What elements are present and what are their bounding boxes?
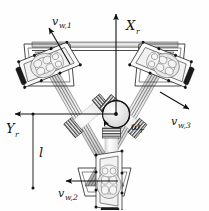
diagram-canvas: X r Y r ω r v w,1 v w,3 v w,2 l: [0, 0, 209, 210]
velocity-label-wheel-1: v: [52, 15, 59, 28]
velocity-subscript-wheel-2: w,2: [65, 193, 78, 202]
rotation-label: ω: [131, 120, 140, 133]
x-axis-subscript: r: [136, 27, 140, 36]
velocity-subscript-wheel-3: w,3: [178, 121, 191, 130]
dimension-label-l: l: [39, 145, 43, 160]
chassis-rail-top: [32, 42, 178, 47]
velocity-label-wheel-3: v: [171, 115, 178, 128]
x-axis-label: X: [125, 18, 136, 33]
velocity-subscript-wheel-1: w,1: [59, 21, 72, 30]
y-axis-subscript: r: [15, 130, 19, 139]
robot-diagram-figure: X r Y r ω r v w,1 v w,3 v w,2 l: [0, 0, 209, 210]
wheel-module-2: [95, 150, 124, 211]
velocity-label-wheel-2: v: [58, 187, 65, 200]
coil-spring-2a: [103, 128, 121, 138]
rotation-subscript: r: [140, 126, 144, 135]
